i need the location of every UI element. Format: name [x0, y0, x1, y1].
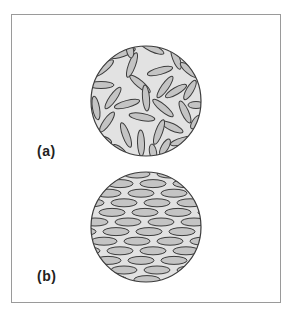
figure: (a) (b): [0, 0, 295, 311]
panel-a-circle: [88, 39, 204, 160]
panel-b-circle: [58, 170, 232, 284]
panel-b-label: (b): [37, 268, 56, 284]
panel-a-label: (a): [37, 143, 56, 159]
